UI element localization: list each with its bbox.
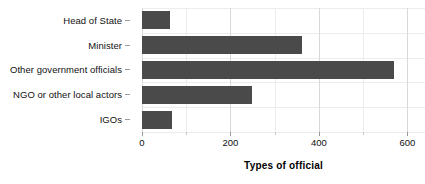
x-axis-tick-mark-icon: [142, 132, 143, 136]
y-axis-tick-label: NGO or other local actors: [13, 89, 122, 100]
y-axis-tick-ngo-or-other-local-actors: NGO or other local actors: [0, 82, 134, 107]
bar-row: [142, 8, 425, 33]
x-axis-tick-label: 0: [139, 137, 144, 148]
x-axis-minor-tick-mark-icon: [186, 132, 187, 135]
y-axis-tick-other-government-officials: Other government officials: [0, 58, 134, 83]
y-axis-tick-mark-icon: [125, 20, 130, 21]
bar-minister[interactable]: [142, 36, 302, 54]
bar-row: [142, 58, 425, 83]
x-axis-minor-tick-mark-icon: [363, 132, 364, 135]
bar-row: [142, 82, 425, 107]
y-axis-tick-label: Minister: [88, 40, 122, 51]
x-axis-tick-mark-icon: [319, 132, 320, 136]
y-axis-tick-label: IGOs: [100, 114, 122, 125]
x-axis-tick-label: 200: [223, 137, 239, 148]
x-axis-minor-tick-mark-icon: [275, 132, 276, 135]
bar-igos[interactable]: [142, 111, 172, 129]
bar-ngo-or-other-local-actors[interactable]: [142, 86, 252, 104]
bar-chart: Head of State Minister Other government …: [0, 0, 425, 184]
y-axis-tick-mark-icon: [125, 45, 130, 46]
bar-row: [142, 107, 425, 132]
plot-area: [142, 8, 425, 132]
x-axis-tick-label: 400: [311, 137, 327, 148]
y-axis-tick-igos: IGOs: [0, 107, 134, 132]
y-axis-tick-head-of-state: Head of State: [0, 8, 134, 33]
y-axis-tick-label: Head of State: [63, 15, 122, 26]
y-axis-tick-label: Other government officials: [10, 64, 122, 75]
y-axis-tick-minister: Minister: [0, 33, 134, 58]
y-axis-tick-mark-icon: [125, 69, 130, 70]
y-axis-tick-mark-icon: [125, 94, 130, 95]
bar-head-of-state[interactable]: [142, 11, 170, 29]
x-axis-tick-mark-icon: [407, 132, 408, 136]
y-axis: Head of State Minister Other government …: [0, 8, 134, 132]
x-axis-title: Types of official: [142, 160, 425, 171]
bars-layer: [142, 8, 425, 132]
bar-other-government-officials[interactable]: [142, 61, 394, 79]
x-axis: 0200400600: [142, 132, 425, 152]
x-axis-tick-label: 600: [399, 137, 415, 148]
y-axis-tick-mark-icon: [125, 119, 130, 120]
bar-row: [142, 33, 425, 58]
x-axis-tick-mark-icon: [230, 132, 231, 136]
